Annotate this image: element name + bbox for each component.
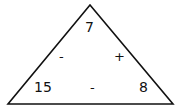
bottom-right-number: 8 — [139, 80, 148, 94]
top-number: 7 — [85, 20, 94, 34]
bottom-left-number: 15 — [34, 80, 52, 94]
triangle-shape — [0, 0, 184, 112]
left-edge-operator: - — [59, 50, 64, 63]
right-edge-operator: + — [114, 50, 125, 63]
bottom-edge-operator: - — [90, 81, 95, 94]
